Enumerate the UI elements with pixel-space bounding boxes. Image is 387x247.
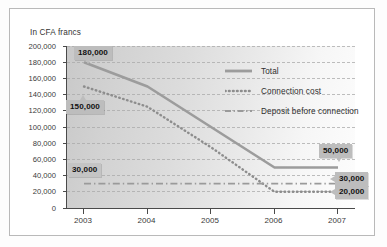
legend-item-total: Total <box>225 61 375 81</box>
chart-frame: In CFA francs 20032004200520062007 <box>9 8 375 236</box>
y-axis-label: 180,000 <box>10 57 56 66</box>
y-axis-label: 40,000 <box>10 171 56 180</box>
y-axis-tick <box>63 78 68 79</box>
y-axis-tick <box>63 175 68 176</box>
chart-axis-unit-title: In CFA francs <box>30 28 81 37</box>
y-axis-label: 60,000 <box>10 154 56 163</box>
x-axis-label: 2007 <box>328 216 346 225</box>
x-axis-tick <box>337 209 338 214</box>
y-axis-tick <box>63 159 68 160</box>
legend-label-total: Total <box>261 67 279 76</box>
annotation-total-end: 50,000 <box>319 144 352 158</box>
x-axis-label: 2003 <box>74 216 92 225</box>
annotation-total-start: 180,000 <box>74 46 112 60</box>
x-axis: 20032004200520062007 <box>66 208 355 209</box>
x-axis-tick <box>210 209 211 214</box>
legend-label-connection-cost: Connection cost <box>261 87 321 96</box>
chart-page: In CFA francs 20032004200520062007 <box>0 0 387 247</box>
y-axis <box>66 46 67 209</box>
y-axis-label: 140,000 <box>10 90 56 99</box>
annotation-pointer-left-icon <box>330 189 335 195</box>
legend-key-dotted-icon <box>225 86 252 96</box>
annotation-pointer-left-icon <box>330 176 335 182</box>
legend-key-solid-icon <box>225 66 252 76</box>
chart-legend: Total Connection cost Deposit before con… <box>225 61 375 121</box>
y-axis-tick <box>63 46 68 47</box>
y-axis-tick <box>63 127 68 128</box>
y-axis-tick <box>63 143 68 144</box>
y-axis-tick <box>63 191 68 192</box>
x-axis-tick <box>147 209 148 214</box>
annotation-pointer-up-icon <box>80 95 86 100</box>
x-axis-label: 2004 <box>138 216 156 225</box>
x-axis-label: 2005 <box>201 216 219 225</box>
legend-item-connection-cost: Connection cost <box>225 81 375 101</box>
y-axis-label: 0 <box>10 203 56 212</box>
annotation-connection-start: 150,000 <box>66 100 104 114</box>
y-axis-label: 200,000 <box>10 41 56 50</box>
annotation-pointer-down-icon <box>336 157 342 162</box>
legend-label-deposit: Deposit before connection <box>261 107 359 116</box>
legend-key-dashdot-icon <box>225 106 252 116</box>
y-axis-label: 160,000 <box>10 73 56 82</box>
y-axis-tick <box>63 94 68 95</box>
legend-item-deposit: Deposit before connection <box>225 101 375 121</box>
y-axis-tick <box>63 62 68 63</box>
y-axis-label: 80,000 <box>10 138 56 147</box>
x-axis-tick <box>274 209 275 214</box>
y-axis-label: 20,000 <box>10 187 56 196</box>
annotation-connection-end: 20,000 <box>335 185 368 199</box>
x-axis-tick <box>83 209 84 214</box>
annotation-deposit-left: 30,000 <box>68 163 101 177</box>
y-axis-label: 100,000 <box>10 122 56 131</box>
x-axis-label: 2006 <box>265 216 283 225</box>
annotation-pointer-down-icon <box>85 59 91 64</box>
y-axis-label: 120,000 <box>10 106 56 115</box>
annotation-deposit-end: 30,000 <box>335 172 368 186</box>
